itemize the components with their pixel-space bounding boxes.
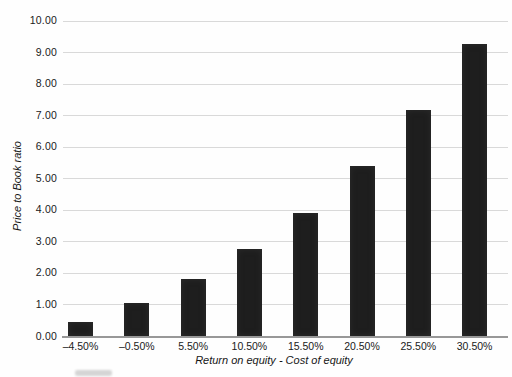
x-tick-label: 5.50%	[163, 341, 223, 352]
x-axis-line	[62, 336, 508, 338]
x-tick-label: 10.50%	[219, 341, 279, 352]
gridline	[63, 115, 508, 116]
x-tick-label: 30.50%	[445, 341, 505, 352]
bar	[68, 322, 93, 336]
y-tick-label: 5.00	[0, 173, 57, 184]
x-axis-title: Return on equity - Cost of equity	[195, 354, 353, 366]
y-tick-label: 9.00	[0, 47, 57, 58]
y-tick-label: 10.00	[0, 15, 57, 26]
y-tick-label: 0.00	[0, 331, 57, 342]
y-axis-title: Price to Book ratio	[11, 141, 23, 231]
gridline	[63, 52, 508, 53]
gridline	[63, 84, 508, 85]
gridline	[63, 241, 508, 242]
y-tick-label: 2.00	[0, 267, 57, 278]
y-tick-label: 1.00	[0, 299, 57, 310]
x-tick-label: –0.50%	[107, 341, 167, 352]
bar	[293, 213, 318, 336]
scanned-book-page: Price to Book ratio 0.001.002.003.004.00…	[0, 0, 512, 377]
x-tick-label: 15.50%	[276, 341, 336, 352]
scan-artifact	[75, 370, 112, 376]
y-tick-label: 4.00	[0, 204, 57, 215]
bar	[406, 110, 431, 336]
gridline	[63, 21, 508, 22]
bar	[462, 44, 487, 336]
gridline	[63, 273, 508, 274]
y-tick-label: 3.00	[0, 236, 57, 247]
x-tick-label: 20.50%	[332, 341, 392, 352]
y-tick-label: 6.00	[0, 141, 57, 152]
bar	[237, 249, 262, 336]
bar	[350, 166, 375, 336]
gridline	[63, 178, 508, 179]
bar	[181, 279, 206, 336]
x-tick-label: –4.50%	[51, 341, 111, 352]
price-to-book-chart: Price to Book ratio 0.001.002.003.004.00…	[0, 0, 512, 377]
y-tick-label: 7.00	[0, 110, 57, 121]
gridline	[63, 210, 508, 211]
bar	[124, 303, 149, 336]
x-tick-label: 25.50%	[388, 341, 448, 352]
y-tick-label: 8.00	[0, 78, 57, 89]
gridline	[63, 147, 508, 148]
